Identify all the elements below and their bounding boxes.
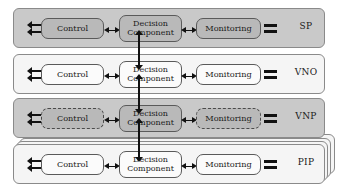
right-interface-icon [264, 22, 278, 36]
layer-label-vnp: VNP [286, 111, 326, 121]
layer-pip[interactable]: Control Decision Component Monitoring PI… [13, 144, 325, 184]
layer-vnp[interactable]: Control Decision Component Monitoring VN… [13, 98, 325, 138]
sp-decision-component-node[interactable]: Decision Component [119, 15, 182, 42]
pip-decision-component-node[interactable]: Decision Component [119, 151, 182, 178]
vnp-control-label: Control [57, 114, 88, 122]
layer-sp[interactable]: Control Decision Component Monitoring SP [13, 8, 325, 48]
vno-decision-component-node[interactable]: Decision Component [119, 61, 182, 88]
vnp-decision-component-node[interactable]: Decision Component [119, 105, 182, 132]
vnp-control-node[interactable]: Control [41, 108, 104, 129]
layer-vno[interactable]: Control Decision Component Monitoring VN… [13, 54, 325, 94]
pip-control-label: Control [57, 160, 88, 168]
vno-control-decision-link [104, 73, 120, 80]
sp-control-node[interactable]: Control [41, 18, 104, 39]
vno-control-node[interactable]: Control [41, 64, 104, 85]
sp-control-label: Control [57, 24, 88, 32]
vno-monitoring-node[interactable]: Monitoring [196, 64, 261, 85]
vnp-monitoring-node[interactable]: Monitoring [196, 108, 261, 129]
link-vnp-pip [135, 118, 143, 162]
layer-label-vno: VNO [286, 67, 326, 77]
sp-monitoring-node[interactable]: Monitoring [196, 18, 261, 39]
pip-control-decision-link [104, 163, 120, 170]
vnp-control-decision-link [104, 117, 120, 124]
layer-label-sp: SP [286, 21, 326, 31]
left-interface-icon [27, 21, 42, 37]
vno-decision-monitoring-link [181, 73, 197, 80]
pip-decision-label-line2: Component [127, 165, 174, 173]
left-interface-icon [27, 111, 42, 127]
sp-control-decision-link [104, 27, 120, 34]
right-interface-icon [264, 112, 278, 126]
sp-decision-monitoring-link [181, 27, 197, 34]
vno-monitoring-label: Monitoring [205, 70, 251, 78]
left-interface-icon [27, 67, 42, 83]
link-sp-vno [135, 30, 143, 70]
layer-label-pip: PIP [286, 157, 326, 167]
vno-control-label: Control [57, 70, 88, 78]
layered-architecture-diagram: Control Decision Component Monitoring SP [0, 0, 351, 190]
vnp-decision-monitoring-link [181, 117, 197, 124]
pip-decision-monitoring-link [181, 163, 197, 170]
link-vno-vnp [135, 74, 143, 114]
right-interface-icon [264, 68, 278, 82]
vnp-monitoring-label: Monitoring [205, 114, 251, 122]
sp-monitoring-label: Monitoring [205, 24, 251, 32]
pip-monitoring-node[interactable]: Monitoring [196, 154, 261, 175]
right-interface-icon [264, 158, 278, 172]
left-interface-icon [27, 157, 42, 173]
pip-control-node[interactable]: Control [41, 154, 104, 175]
pip-monitoring-label: Monitoring [205, 160, 251, 168]
